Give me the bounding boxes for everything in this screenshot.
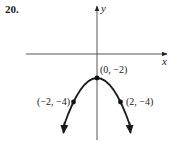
right-point — [118, 100, 123, 105]
x-axis-label: x — [161, 55, 167, 67]
left-point — [71, 100, 76, 105]
vertex-point — [95, 76, 100, 81]
parabola-graph: y x (0, −2) (−2, −4) (2, −4) — [0, 0, 184, 152]
right-point-label: (2, −4) — [126, 96, 153, 108]
left-point-label: (−2, −4) — [37, 96, 70, 108]
right-end-arrow — [129, 123, 130, 134]
vertex-label: (0, −2) — [100, 64, 127, 76]
left-end-arrow — [64, 123, 65, 134]
y-axis-label: y — [100, 2, 106, 14]
